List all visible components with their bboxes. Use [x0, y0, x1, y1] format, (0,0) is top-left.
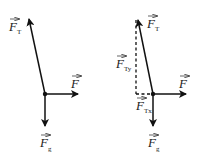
right-label-fg: F g — [147, 135, 160, 153]
left-tension-arrow — [29, 19, 45, 94]
label-symbol: F — [70, 76, 80, 91]
left-object-point — [43, 92, 47, 96]
label-symbol: F — [178, 76, 188, 91]
right-label-fty: F Ty — [115, 56, 132, 73]
left-label-fg: F g — [39, 135, 52, 153]
label-subscript: Ty — [124, 65, 132, 73]
label-subscript: Tx — [144, 107, 152, 115]
left-diagram: F T F F g — [8, 19, 81, 153]
label-subscript: g — [156, 145, 160, 153]
label-subscript: T — [17, 28, 22, 36]
right-label-ftx: F Tx — [135, 98, 152, 115]
right-object-point — [151, 92, 155, 96]
label-subscript: T — [155, 25, 160, 33]
left-label-ft: F T — [8, 19, 22, 36]
left-label-f: F — [70, 76, 81, 91]
right-label-f: F — [178, 76, 189, 91]
label-subscript: g — [48, 145, 52, 153]
right-diagram: F T F Ty F Tx F F g — [115, 16, 189, 153]
right-label-ft: F T — [146, 16, 160, 33]
force-diagrams: F T F F g F T F Ty F — [0, 0, 201, 160]
right-tension-arrow — [138, 20, 153, 94]
